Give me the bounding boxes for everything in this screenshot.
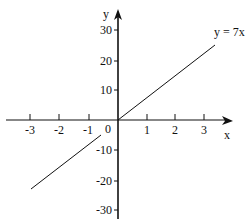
svg-text:-2: -2 xyxy=(54,123,64,137)
svg-text:20: 20 xyxy=(100,54,112,68)
origin-label: 0 xyxy=(105,122,111,136)
x-tick-labels: -3 -2 -1 1 2 3 0 x xyxy=(25,122,230,142)
svg-text:-3: -3 xyxy=(25,123,35,137)
chart: -3 -2 -1 1 2 3 0 x 30 20 10 -10 -20 -30 … xyxy=(0,0,251,219)
y-tick-labels: 30 20 10 -10 -20 -30 y xyxy=(96,7,112,217)
svg-text:1: 1 xyxy=(144,123,150,137)
svg-text:-30: -30 xyxy=(96,203,112,217)
x-axis-label: x xyxy=(224,128,230,142)
svg-text:3: 3 xyxy=(201,123,207,137)
svg-text:2: 2 xyxy=(172,123,178,137)
x-ticks xyxy=(30,114,204,120)
svg-text:-1: -1 xyxy=(83,123,93,137)
line-annotation: y = 7x xyxy=(214,25,245,39)
svg-text:30: 30 xyxy=(100,23,112,37)
line-upper-segment xyxy=(118,45,215,120)
svg-text:10: 10 xyxy=(100,83,112,97)
line-lower-segment xyxy=(31,135,101,189)
svg-text:-20: -20 xyxy=(96,174,112,188)
svg-text:-10: -10 xyxy=(96,143,112,157)
y-axis-label: y xyxy=(103,7,109,21)
